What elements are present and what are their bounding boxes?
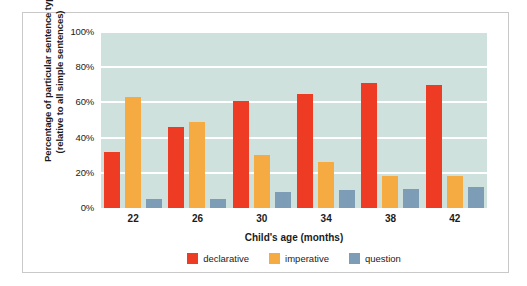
bar-group [358,32,422,208]
bar-declarative-22 [104,152,120,208]
legend-item-imperative[interactable]: imperative [269,253,329,264]
bar-imperative-30 [254,155,270,208]
bar-declarative-38 [361,83,377,208]
x-tick-label: 22 [103,213,163,224]
x-tick-label: 34 [296,213,356,224]
legend-swatch-question [349,253,360,264]
y-tick-label: 40% [54,132,94,143]
legend-item-question[interactable]: question [349,253,401,264]
bar-declarative-34 [297,94,313,208]
bar-imperative-38 [382,176,398,208]
bar-declarative-42 [426,85,442,208]
y-tick-label: 0% [54,202,94,213]
bar-group [101,32,165,208]
bar-question-38 [403,189,419,208]
bar-question-34 [339,190,355,208]
chart-legend: declarativeimperativequestion [101,253,487,264]
legend-swatch-imperative [269,253,280,264]
x-tick-label: 42 [425,213,485,224]
bar-imperative-42 [447,176,463,208]
legend-swatch-declarative [187,253,198,264]
bar-declarative-26 [168,127,184,208]
y-tick-label: 20% [54,167,94,178]
x-tick-label: 38 [361,213,421,224]
bar-group [165,32,229,208]
plot-area [101,32,487,208]
legend-item-declarative[interactable]: declarative [187,253,249,264]
figure-card: Percentage of particular sentence types … [22,12,509,273]
x-axis-title: Child's age (months) [101,232,487,243]
bar-question-42 [468,187,484,208]
y-tick-label: 60% [54,96,94,107]
bar-question-26 [210,199,226,208]
legend-label-question: question [365,253,401,264]
legend-label-imperative: imperative [285,253,329,264]
bar-imperative-26 [189,122,205,208]
bar-imperative-34 [318,162,334,208]
bar-group [230,32,294,208]
legend-label-declarative: declarative [203,253,249,264]
bar-question-30 [275,192,291,208]
bar-group [423,32,487,208]
bar-group [294,32,358,208]
x-tick-label: 30 [232,213,292,224]
bar-imperative-22 [125,97,141,208]
y-axis-title-line-1: Percentage of particular sentence types [42,2,54,162]
y-tick-label: 80% [54,61,94,72]
y-tick-label: 100% [54,26,94,37]
bar-question-22 [146,199,162,208]
bar-declarative-30 [233,101,249,208]
bars-layer [101,32,487,208]
x-tick-label: 26 [168,213,228,224]
